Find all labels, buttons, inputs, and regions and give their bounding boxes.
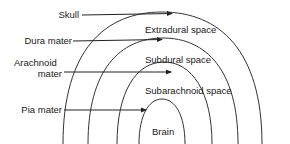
- dura-arrow: [73, 40, 162, 42]
- label-subdural-space: Subdural space: [145, 54, 211, 65]
- label-pia-mater: Pia mater: [21, 104, 62, 115]
- label-subarachnoid-space: Subarachnoid space: [145, 85, 232, 96]
- label-arachnoid-line2: mater: [38, 68, 62, 79]
- label-arachnoid-line1: Arachnoid: [14, 57, 57, 68]
- label-brain: Brain: [152, 126, 174, 137]
- label-skull: Skull: [58, 9, 79, 20]
- label-extradural-space: Extradural space: [145, 24, 216, 35]
- skull-arrow: [82, 14, 172, 16]
- label-dura-mater: Dura mater: [24, 35, 72, 46]
- pia-arc: [139, 99, 185, 144]
